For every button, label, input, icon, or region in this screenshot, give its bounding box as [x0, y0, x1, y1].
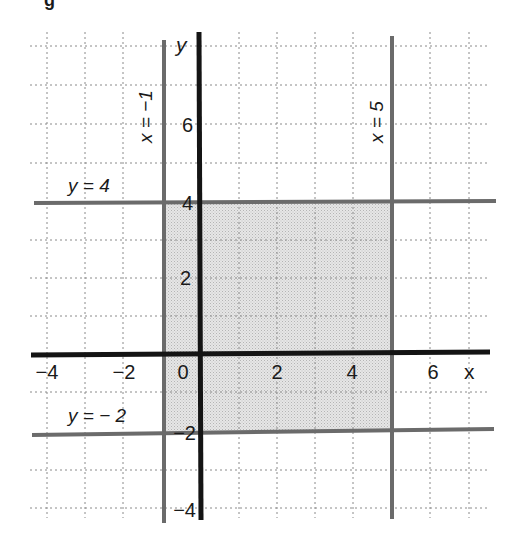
coordinate-plane-figure: g [0, 0, 514, 539]
svg-text:4: 4 [182, 192, 193, 214]
y-axis-label: y [174, 33, 188, 56]
svg-text:4: 4 [346, 361, 357, 383]
svg-text:0: 0 [177, 361, 188, 383]
svg-text:6: 6 [427, 361, 438, 383]
label-x-eq-neg1: x = −1 [135, 90, 156, 144]
line-y-eq-4 [34, 201, 496, 203]
svg-text:−4: −4 [173, 499, 196, 521]
x-axis-label: x [464, 360, 475, 383]
label-x-eq-5: x = 5 [366, 101, 387, 144]
caption-fragment: g [44, 0, 55, 10]
x-axis [31, 352, 490, 355]
label-y-eq-neg2: y = − 2 [66, 405, 127, 426]
svg-text:2: 2 [180, 267, 191, 289]
svg-text:6: 6 [182, 114, 193, 136]
label-y-eq-4: y = 4 [66, 175, 110, 196]
y-axis [199, 32, 201, 520]
svg-text:−4: −4 [36, 361, 59, 383]
svg-text:−2: −2 [113, 361, 136, 383]
svg-text:−2: −2 [173, 422, 196, 444]
svg-text:2: 2 [271, 361, 282, 383]
